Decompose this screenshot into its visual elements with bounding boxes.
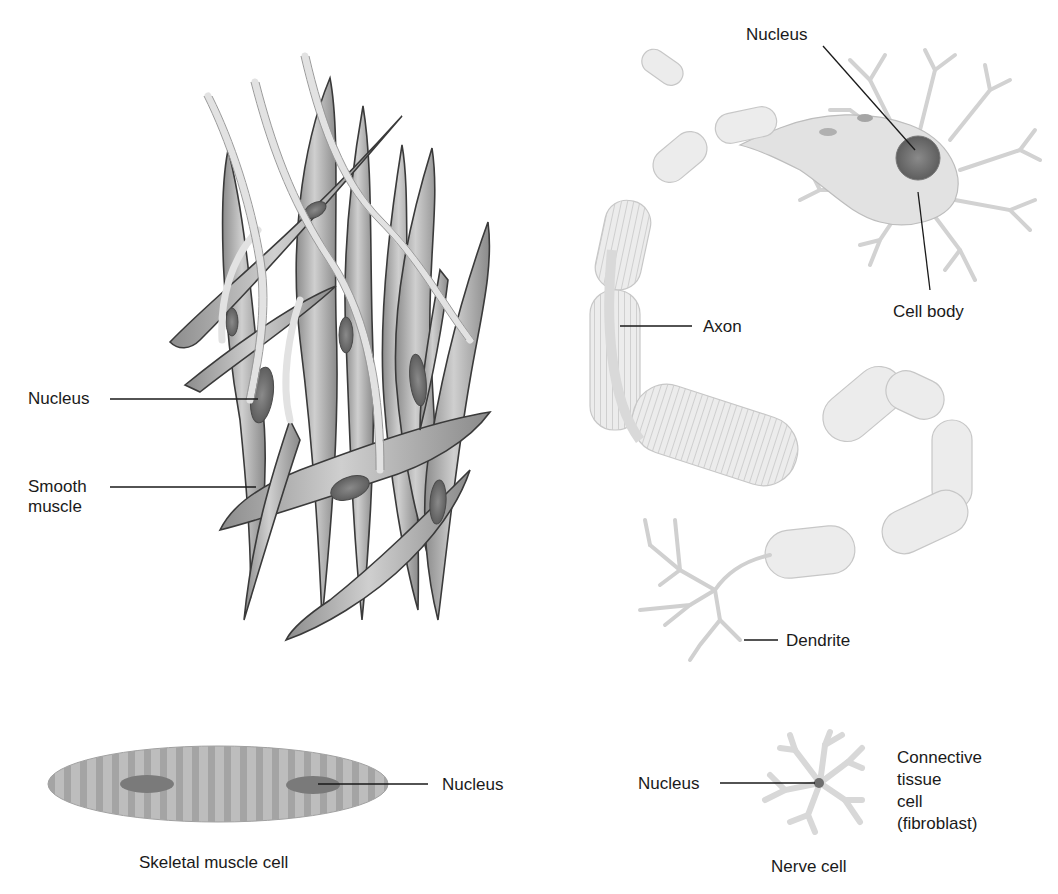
caption-nerve-cell: Nerve cell — [771, 857, 847, 877]
label-axon: Axon — [703, 317, 742, 337]
label-neuron-nucleus: Nucleus — [746, 25, 807, 45]
label-dendrite: Dendrite — [786, 631, 850, 651]
caption-skeletal-muscle-cell: Skeletal muscle cell — [139, 853, 288, 873]
smooth-muscle-illustration — [170, 56, 490, 640]
nerve-cell-illustration — [590, 45, 1040, 660]
fibroblast-illustration — [765, 732, 862, 832]
label-skeletal-nucleus: Nucleus — [442, 775, 503, 795]
label-cell-body: Cell body — [893, 302, 964, 322]
label-connective-tissue-cell: Connective tissue cell (fibroblast) — [897, 747, 982, 835]
fibroblast-nucleus — [814, 778, 824, 788]
label-smooth-muscle: Smooth muscle — [28, 477, 87, 517]
label-smooth-nucleus: Nucleus — [28, 389, 89, 409]
label-fibroblast-nucleus: Nucleus — [638, 774, 699, 794]
